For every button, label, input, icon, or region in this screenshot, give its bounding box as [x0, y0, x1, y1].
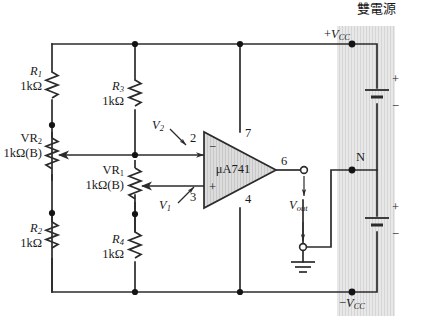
label-R3-value: 1kΩ [82, 94, 124, 108]
label-Vout: Vout [289, 198, 308, 214]
label-vcc-negative: −VCC [325, 296, 379, 312]
label-V2-name: V [152, 118, 160, 132]
label-R3-name: R [112, 79, 120, 93]
label-R2-sub: 2 [38, 226, 42, 236]
node-vcc-negative [349, 289, 356, 296]
label-VR1-value: 1kΩ(B) [66, 178, 124, 192]
label-VR1-name: VR [102, 163, 119, 177]
node-vr1-r4 [132, 211, 138, 217]
label-VR2-value: 1kΩ(B) [0, 146, 42, 160]
label-R4-name: R [112, 232, 120, 246]
opamp-pin-3: 3 [190, 190, 196, 204]
label-R1-name: R [30, 64, 38, 78]
battery-2-plus: + [392, 200, 399, 214]
label-N-midpoint: N [356, 150, 365, 164]
dual-supply-region [337, 26, 395, 316]
opamp-noninverting-sign: + [209, 180, 216, 194]
opamp-pin-4: 4 [245, 192, 251, 206]
label-Vout-sub: out [297, 203, 308, 213]
node-vr2-r2 [49, 210, 55, 216]
opamp-pin-6: 6 [281, 154, 287, 168]
return-terminal [300, 244, 307, 251]
node-r1-vr2 [49, 122, 55, 128]
label-R4: R4 [86, 232, 124, 248]
vcc-plus-name: V [331, 27, 339, 41]
label-R3-sub: 3 [120, 84, 124, 94]
label-R3: R3 [86, 79, 124, 95]
label-R1: R1 [4, 64, 42, 80]
battery-1-minus: − [392, 99, 399, 113]
node-vr2-branch-r3 [132, 152, 138, 158]
label-R2: R2 [4, 221, 42, 237]
potentiometer-VR1-symbol [129, 168, 141, 199]
label-V2: V2 [152, 118, 164, 134]
vcc-plus-sign: + [324, 27, 331, 41]
label-VR1-sub: 1 [120, 168, 124, 178]
resistor-R1-symbol [46, 72, 58, 98]
label-VR2-name: VR [20, 131, 37, 145]
battery-2-minus: − [392, 227, 399, 241]
label-V1-name: V [159, 198, 167, 212]
label-R2-value: 1kΩ [0, 236, 42, 250]
label-V1: V1 [159, 198, 171, 214]
vcc-plus-sub: CC [339, 32, 350, 42]
output-terminal [301, 167, 308, 174]
opamp-pin-7: 7 [245, 126, 251, 140]
node-bottom-pin4 [237, 289, 243, 295]
supply-title: 雙電源 [357, 2, 396, 17]
resistor-R4-symbol [129, 232, 141, 258]
label-V1-sub: 1 [167, 203, 171, 213]
battery-1-plus: + [392, 72, 399, 86]
label-VR2: VR2 [0, 131, 42, 147]
label-Vout-name: V [289, 198, 297, 212]
vcc-minus-sign: − [339, 296, 346, 310]
node-top-pin7 [237, 41, 243, 47]
label-R1-value: 1kΩ [0, 79, 42, 93]
resistor-R3-symbol [129, 80, 141, 106]
opamp-pin-2: 2 [190, 131, 196, 145]
label-VR1: VR1 [72, 163, 124, 179]
node-bottom-r4 [132, 289, 138, 295]
ground-icon [291, 262, 315, 272]
label-R2-name: R [30, 221, 38, 235]
vcc-minus-sub: CC [354, 301, 365, 311]
v2-pointer [170, 129, 186, 145]
opamp-inverting-sign: − [209, 140, 216, 154]
label-R4-sub: 4 [120, 237, 124, 247]
label-V2-sub: 2 [160, 123, 164, 133]
label-vcc-positive: +VCC [296, 27, 350, 43]
label-R4-value: 1kΩ [82, 247, 124, 261]
node-N-midpoint [349, 167, 356, 174]
circuit-figure: 雙電源 R1 1kΩ VR2 1kΩ(B) R2 1kΩ R3 1kΩ VR1 … [0, 0, 422, 327]
label-VR2-sub: 2 [38, 136, 42, 146]
vcc-minus-name: V [346, 296, 354, 310]
label-R1-sub: 1 [38, 69, 42, 79]
node-top-r3 [132, 41, 138, 47]
opamp-part-label: μA741 [206, 162, 260, 176]
